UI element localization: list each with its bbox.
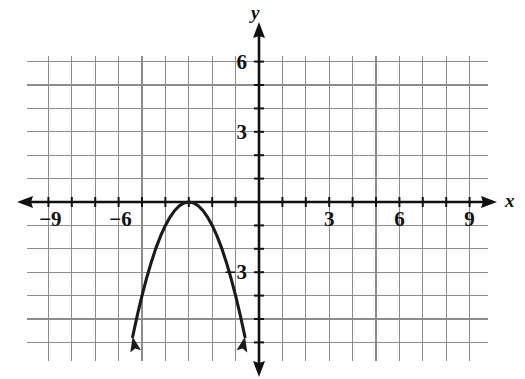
x-tick-label: 6 (394, 207, 405, 231)
y-tick-label: −3 (225, 260, 247, 284)
x-tick-label: 9 (464, 207, 475, 231)
x-axis-arrow-right-icon (481, 196, 497, 208)
x-axis-arrow-left-icon (17, 196, 33, 208)
parabola-arrow-right-icon (237, 337, 248, 353)
y-tick-label: 6 (237, 50, 248, 74)
y-tick-label: 3 (237, 120, 248, 144)
x-tick-label: −6 (109, 207, 131, 231)
x-tick-label: −9 (39, 207, 61, 231)
graph-figure: −9−636963−3 x y (0, 0, 525, 379)
x-tick-label: 3 (324, 207, 335, 231)
y-axis-label: y (251, 2, 259, 24)
parabola-arrow-left-icon (130, 337, 141, 353)
x-axis-label: x (505, 190, 515, 212)
coordinate-plane-svg: −9−636963−3 (0, 0, 525, 379)
axis-lines (17, 22, 497, 377)
y-axis-arrow-down-icon (253, 361, 265, 377)
y-axis-arrow-up-icon (253, 22, 265, 38)
